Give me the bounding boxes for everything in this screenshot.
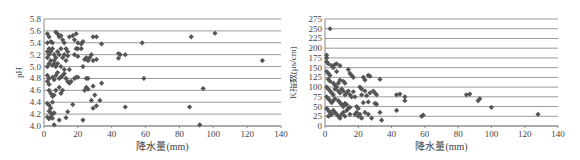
- data-point-diamond: [187, 104, 192, 109]
- data-point-diamond: [123, 52, 128, 57]
- x-tick-label: 60: [141, 129, 151, 139]
- data-point-diamond: [80, 64, 85, 69]
- x-tick-label: 20: [354, 129, 364, 139]
- y-tick-label: 100: [309, 82, 323, 92]
- y-tick-label: 0: [318, 121, 323, 131]
- y-tick-label: 5.8: [30, 14, 42, 24]
- y-axis-title: pH: [14, 67, 24, 79]
- y-tick-label: 4.2: [30, 109, 41, 119]
- data-point-diamond: [50, 100, 55, 105]
- y-tick-label: 25: [313, 111, 323, 121]
- data-point-diamond: [379, 118, 384, 123]
- x-tick-label: 100: [485, 129, 499, 139]
- data-point-diamond: [58, 64, 63, 69]
- x-tick-label: 80: [175, 129, 185, 139]
- data-point-diamond: [63, 115, 68, 120]
- y-tick-label: 275: [309, 14, 323, 24]
- data-point-diamond: [123, 104, 128, 109]
- y-tick-label: 5.2: [30, 50, 41, 60]
- data-point-diamond: [334, 69, 339, 74]
- data-point-diamond: [377, 110, 382, 115]
- x-tick-label: 40: [107, 129, 117, 139]
- data-point-diamond: [140, 40, 145, 45]
- ph-scatter-chart: 4.04.24.44.64.85.05.25.45.65.80204060801…: [0, 0, 290, 160]
- data-point-diamond: [189, 34, 194, 39]
- x-tick-label: 120: [240, 129, 254, 139]
- data-point-diamond: [90, 84, 95, 89]
- data-point-diamond: [197, 122, 202, 127]
- data-point-diamond: [57, 85, 62, 90]
- data-point-diamond: [352, 94, 357, 99]
- y-tick-label: 75: [313, 92, 323, 102]
- x-tick-label: 100: [207, 129, 221, 139]
- data-point-diamond: [92, 92, 97, 97]
- x-tick-label: 0: [42, 129, 47, 139]
- data-point-diamond: [58, 46, 63, 51]
- x-tick-label: 120: [518, 129, 532, 139]
- x-tick-label: 140: [551, 129, 565, 139]
- y-tick-label: 175: [309, 53, 323, 63]
- data-point-diamond: [99, 41, 104, 46]
- y-tick-label: 50: [313, 102, 323, 112]
- data-point-diamond: [57, 117, 62, 122]
- x-tick-label: 60: [420, 129, 430, 139]
- data-point-diamond: [327, 26, 332, 31]
- data-point-diamond: [70, 102, 75, 107]
- k-index-scatter-svg: 0255075100125150175200225250275020406080…: [290, 0, 580, 160]
- data-point-diamond: [141, 76, 146, 81]
- y-tick-label: 225: [309, 33, 323, 43]
- y-tick-label: 5.0: [30, 62, 42, 72]
- y-tick-label: 5.4: [30, 38, 42, 48]
- y-tick-label: 4.4: [30, 97, 42, 107]
- data-point-diamond: [402, 98, 407, 103]
- data-point-diamond: [79, 46, 84, 51]
- data-point-diamond: [361, 100, 366, 105]
- x-tick-label: 20: [73, 129, 83, 139]
- data-point-diamond: [67, 67, 72, 72]
- data-point-diamond: [65, 109, 70, 114]
- k-index-scatter-chart: 0255075100125150175200225250275020406080…: [290, 0, 580, 160]
- y-tick-label: 4.8: [30, 73, 42, 83]
- data-point-diamond: [366, 99, 371, 104]
- data-point-diamond: [53, 88, 58, 93]
- data-point-diamond: [489, 105, 494, 110]
- data-point-diamond: [260, 58, 265, 63]
- data-point-diamond: [80, 117, 85, 122]
- x-tick-label: 0: [323, 129, 328, 139]
- data-point-diamond: [351, 89, 356, 94]
- y-tick-label: 250: [309, 24, 323, 34]
- x-tick-label: 140: [274, 129, 288, 139]
- y-tick-label: 125: [309, 72, 323, 82]
- y-tick-label: 150: [309, 63, 323, 73]
- data-point-diamond: [394, 108, 399, 113]
- y-axis-title: K指数(μs/cm): [290, 46, 298, 98]
- data-point-diamond: [99, 81, 104, 86]
- x-axis-title: 降水量(mm): [136, 140, 188, 153]
- y-tick-label: 4.6: [30, 85, 42, 95]
- y-tick-label: 200: [309, 43, 323, 53]
- y-tick-label: 4.0: [30, 121, 42, 131]
- y-tick-label: 5.6: [30, 26, 42, 36]
- x-axis-title: 降水量(mm): [415, 140, 467, 153]
- x-tick-label: 40: [387, 129, 397, 139]
- data-point-diamond: [52, 122, 57, 127]
- data-point-diamond: [94, 34, 99, 39]
- ph-scatter-svg: 4.04.24.44.64.85.05.25.45.65.80204060801…: [0, 0, 290, 160]
- x-tick-label: 80: [454, 129, 464, 139]
- data-point-diamond: [212, 31, 217, 36]
- data-point-diamond: [63, 58, 68, 63]
